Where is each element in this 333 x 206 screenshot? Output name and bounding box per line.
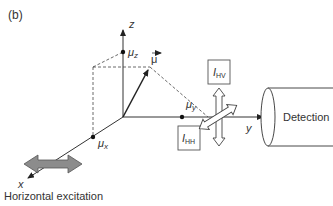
x-axis: [28, 117, 123, 178]
excitation-label: Horizontal excitation: [4, 190, 103, 202]
mu-y-point: [180, 115, 184, 119]
x-axis-label: x: [17, 178, 24, 190]
mu-vector-label: μ: [151, 53, 161, 65]
mu-x-point: [91, 135, 95, 139]
polarization-diagram: (b) z y x μ μz μy μx Horizontal excitati…: [0, 0, 333, 206]
mu-vector: [123, 70, 148, 117]
svg-text:μ: μ: [151, 53, 157, 65]
mu-z-point: [121, 50, 125, 54]
y-axis-label: y: [245, 122, 253, 134]
detection-label: Detection: [283, 111, 329, 123]
z-axis-label: z: [128, 18, 135, 30]
excitation-arrow-icon: [24, 155, 82, 173]
mu-x-label: μx: [97, 137, 109, 151]
mu-z-label: μz: [127, 46, 138, 60]
mu-y-label: μy: [185, 98, 197, 112]
panel-label: (b): [8, 8, 23, 22]
